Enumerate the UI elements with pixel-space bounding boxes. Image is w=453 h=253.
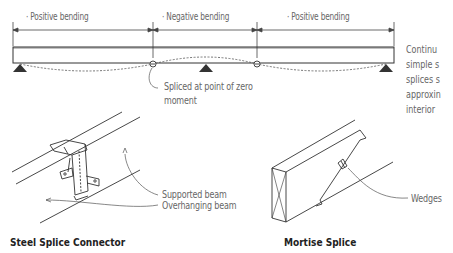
dimension-line [13,22,394,58]
bending-zone-text: Positive bending [291,11,349,22]
steel-splice-drawing [12,112,140,223]
continuous-beam [13,47,394,63]
side-text-line: splices s [406,72,441,87]
support-middle-icon [199,64,213,72]
diagram-line-art [0,0,453,253]
steel-splice-caption: Steel Splice Connector [10,236,125,249]
splice-note-line: moment [164,94,253,108]
side-text-line: Continu [406,42,441,57]
mortise-splice-caption: Mortise Splice [284,236,356,249]
bending-zone-text: Positive bending [30,11,88,22]
side-text-line: approxin [406,87,441,102]
splice-note-leader [149,68,158,88]
bending-zone-label: · Positive bending [26,11,88,22]
bending-zone-label: · Negative bending [162,11,229,22]
wedges-leader [348,168,408,198]
overhanging-beam-callout: Overhanging beam [162,199,236,213]
mortise-splice-drawing [272,120,393,222]
bending-zone-text: Negative bending [166,11,229,22]
splice-note-line: Spliced at point of zero [164,80,253,94]
steel-splice-leaders [46,148,158,206]
side-text-line: interior [406,102,441,117]
side-description: Continu simple s splices s approxin inte… [406,42,441,117]
beam-splice-diagram: · Positive bending · Negative bending · … [0,0,453,253]
side-text-line: simple s [406,57,441,72]
splice-note: Spliced at point of zero moment [164,80,253,108]
wedges-callout: Wedges [411,192,442,206]
bending-zone-label: · Positive bending [287,11,349,22]
